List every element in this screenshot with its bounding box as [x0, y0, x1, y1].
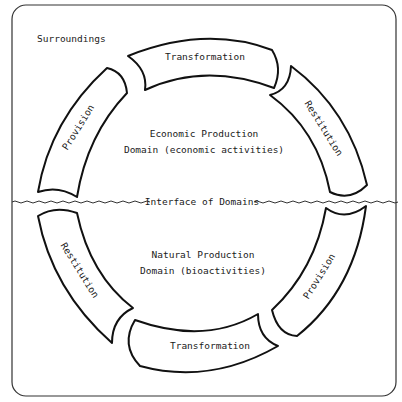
surroundings-label: Surroundings [37, 33, 106, 44]
interface-label: Interface of Domains [145, 196, 259, 207]
arrow-top-transformation [128, 39, 278, 90]
economic-domain-title: Economic Production [150, 128, 259, 139]
arrow-upper-right-restitution [270, 66, 367, 196]
natural-domain-title: Natural Production [152, 249, 255, 260]
interface-line-right [254, 201, 398, 203]
natural-domain-subtitle: Domain (bioactivities) [140, 265, 266, 276]
cycle-diagram: Surroundings Transformation Restitution … [0, 0, 402, 402]
interface-line-left [12, 201, 150, 203]
top-transformation-label: Transformation [165, 51, 245, 62]
arrow-upper-left-provision [38, 68, 127, 197]
economic-domain-subtitle: Domain (economic activities) [124, 144, 284, 155]
bottom-transformation-label: Transformation [170, 340, 250, 351]
